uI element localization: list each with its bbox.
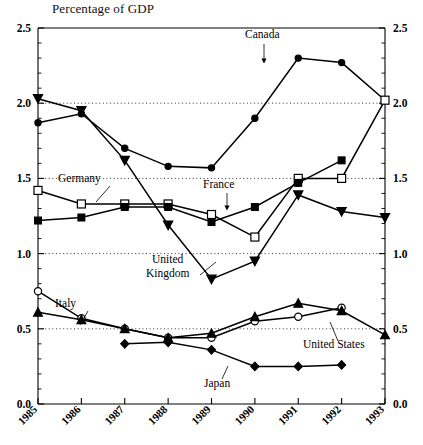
leader-arrow-france [224, 206, 229, 211]
data-point-marker [250, 257, 259, 266]
data-point-marker [208, 346, 216, 354]
data-point-marker [381, 96, 389, 104]
series-label-canada: Canada [245, 28, 279, 40]
y-tick-label-left: 0.5 [17, 323, 32, 335]
chart-container: Percentage of GDP 0.00.00.50.51.01.01.51… [0, 0, 423, 445]
series-label-france: France [203, 178, 234, 190]
y-tick-label-right: 0.5 [393, 323, 408, 335]
x-tick-label: 1991 [276, 403, 300, 427]
chart-svg: 0.00.00.50.51.01.01.51.52.02.02.52.5 198… [0, 0, 423, 445]
y-tick-label-left: 2.5 [17, 22, 32, 34]
x-tick-label: 1989 [189, 403, 213, 427]
data-point-marker [338, 361, 346, 369]
series-united-states [34, 299, 390, 342]
series-label-japan: Japan [204, 377, 230, 390]
data-point-marker [165, 163, 171, 169]
series-label-italy: Italy [55, 297, 76, 310]
data-point-marker [338, 157, 345, 164]
data-point-marker [251, 204, 258, 211]
data-point-marker [251, 362, 259, 370]
x-tick-label: 1990 [232, 403, 256, 427]
data-point-marker [381, 330, 390, 338]
data-point-marker [338, 174, 346, 182]
data-point-marker [77, 200, 85, 208]
data-point-marker [295, 55, 301, 61]
data-point-marker [34, 308, 43, 316]
y-tick-label-right: 2.0 [393, 97, 408, 109]
x-tick-label: 1993 [362, 403, 386, 427]
x-tick-label: 1992 [319, 403, 343, 427]
series-italy [34, 288, 345, 342]
data-point-marker [208, 219, 215, 226]
data-point-marker [295, 180, 302, 187]
data-point-marker [251, 233, 259, 241]
y-tick-label-right: 1.5 [393, 172, 408, 184]
series-label-germany: Germany [58, 172, 101, 185]
y-tick-label-left: 2.0 [17, 97, 32, 109]
data-point-marker [34, 288, 41, 295]
data-point-marker [165, 204, 172, 211]
data-point-marker [121, 204, 128, 211]
series-label-uk1: United [152, 253, 184, 265]
data-point-marker [207, 275, 216, 284]
x-tick-label: 1987 [102, 403, 126, 427]
y-tick-label-right: 1.0 [393, 248, 408, 260]
data-point-marker [294, 362, 302, 370]
data-point-marker [35, 120, 41, 126]
leader-line-germany [96, 186, 110, 202]
x-tick-label: 1988 [145, 403, 169, 427]
series-polyline [38, 58, 385, 168]
data-point-marker [208, 165, 214, 171]
x-axis-labels-group: 198519861987198819891990199119921993 [15, 403, 386, 427]
data-point-marker [294, 299, 303, 307]
data-point-marker [294, 191, 303, 200]
y-tick-label-right: 0.0 [393, 398, 408, 410]
series-label-uk2: Kingdom [146, 267, 190, 280]
data-point-marker [122, 145, 128, 151]
series-canada [35, 55, 388, 171]
data-point-marker [339, 59, 345, 65]
data-point-marker [34, 186, 42, 194]
leader-arrow-canada [261, 59, 266, 64]
y-tick-label-right: 2.5 [393, 22, 408, 34]
y-tick-label-left: 1.0 [17, 248, 32, 260]
series-label-united-states: United States [303, 338, 365, 350]
y-tick-label-left: 1.5 [17, 172, 32, 184]
data-point-marker [121, 340, 129, 348]
data-point-marker [295, 313, 302, 320]
data-series-group [33, 55, 389, 371]
x-tick-label: 1986 [59, 403, 83, 427]
data-point-marker [35, 217, 42, 224]
data-point-marker [120, 156, 129, 165]
data-point-marker [208, 210, 216, 218]
data-point-marker [252, 115, 258, 121]
data-point-marker [78, 214, 85, 221]
